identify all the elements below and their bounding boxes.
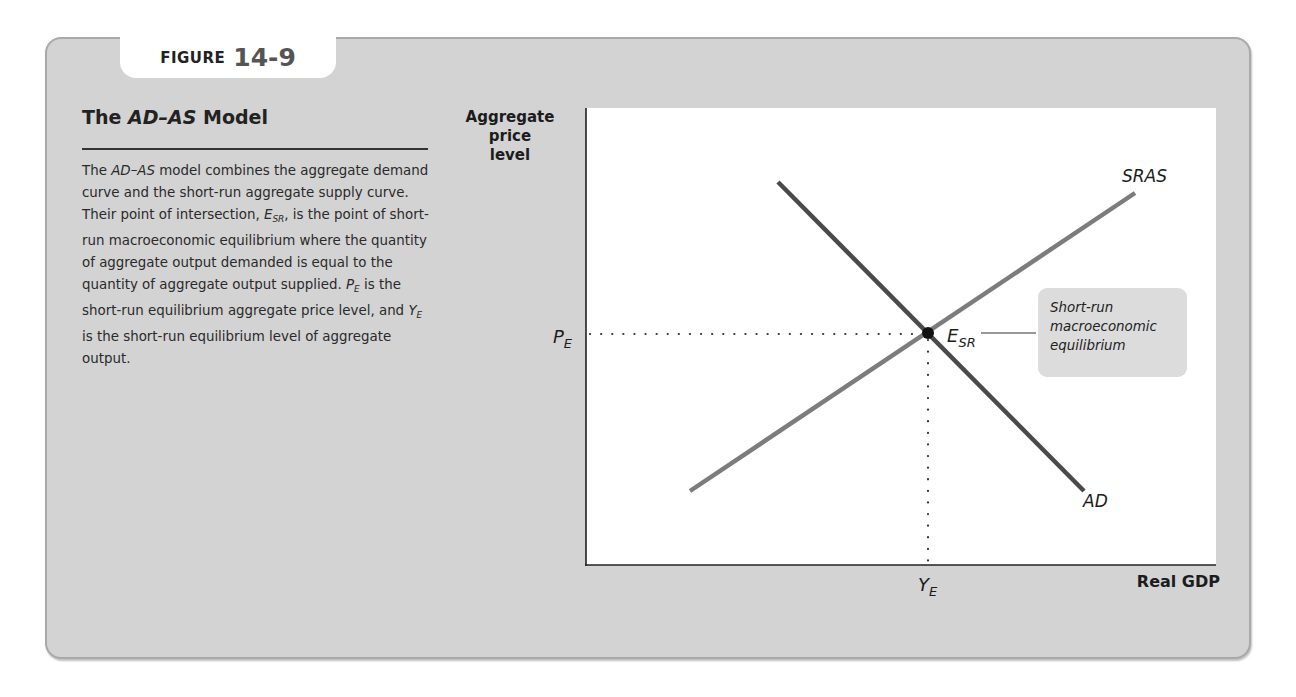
pe-label: PE [553, 326, 573, 351]
ad-label: AD [1082, 491, 1108, 511]
callout-line: macroeconomic [1050, 317, 1187, 336]
ye-label: YE [918, 574, 938, 599]
equilibrium-callout: Short-run macroeconomic equilibrium [1038, 288, 1187, 377]
sras-label: SRAS [1122, 166, 1167, 186]
callout-line: equilibrium [1050, 336, 1187, 355]
equilibrium-point [922, 327, 934, 339]
x-axis-label: Real GDP [1110, 572, 1220, 591]
callout-line: Short-run [1050, 298, 1187, 317]
